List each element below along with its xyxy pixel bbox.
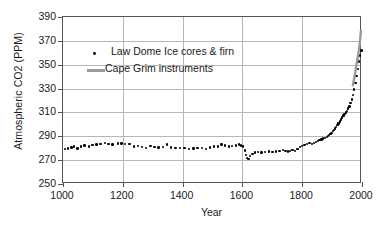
- x-tick: [63, 182, 64, 187]
- y-tick-label: 390: [16, 11, 56, 21]
- y-tick-label: 250: [16, 178, 56, 188]
- legend-label-ice-cores: Law Dome Ice cores & firn: [111, 45, 234, 57]
- plot-area: Law Dome Ice cores & firn Cape Grim inst…: [62, 16, 361, 183]
- x-tick-label: 1200: [99, 189, 145, 201]
- x-tick-label: 2000: [338, 189, 379, 201]
- legend-line-icon: [87, 69, 105, 72]
- y-tick-label: 310: [16, 106, 56, 116]
- co2-chart-figure: Atmospheric CO2 (PPM) Law Dome Ice cores…: [0, 0, 379, 230]
- x-axis-title: Year: [62, 206, 361, 218]
- y-tick-label: 330: [16, 83, 56, 93]
- x-tick: [302, 182, 303, 187]
- x-tick-label: 1800: [278, 189, 324, 201]
- data-point: [360, 49, 362, 51]
- legend-label-cape-grim: Cape Grim instruments: [105, 62, 213, 74]
- x-tick: [242, 182, 243, 187]
- x-tick-label: 1400: [159, 189, 205, 201]
- y-tick-label: 350: [16, 59, 56, 69]
- x-tick: [362, 182, 363, 187]
- x-tick: [123, 182, 124, 187]
- y-tick-label: 370: [16, 35, 56, 45]
- legend-dot-icon: [93, 52, 96, 55]
- y-tick-label: 290: [16, 130, 56, 140]
- x-tick-label: 1000: [39, 189, 85, 201]
- y-tick-label: 270: [16, 154, 56, 164]
- x-tick: [183, 182, 184, 187]
- x-tick-label: 1600: [218, 189, 264, 201]
- cape-grim-line: [63, 17, 360, 182]
